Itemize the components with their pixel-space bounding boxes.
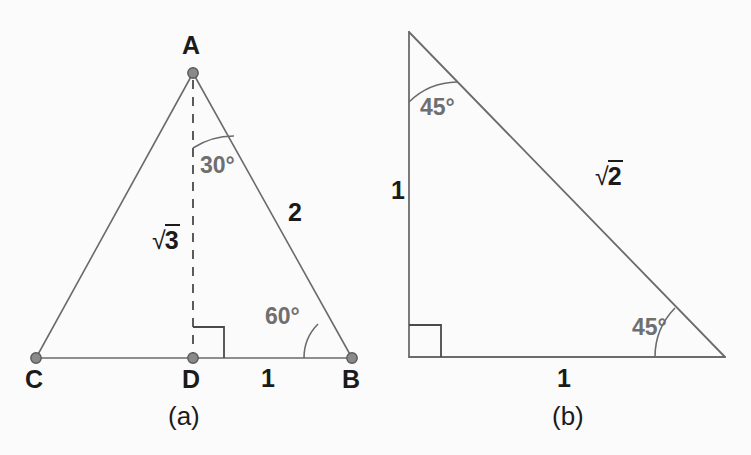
right-angle-marker-d xyxy=(193,327,224,358)
caption-panel-b: (b) xyxy=(552,403,584,429)
vertex-label-d: D xyxy=(182,367,200,392)
side-label-hypotenuse-2: 2 xyxy=(288,200,302,225)
side-label-altitude-sqrt3: √3 xyxy=(152,228,180,253)
caption-panel-a: (a) xyxy=(168,403,200,429)
vertex-dot-a xyxy=(188,68,198,78)
vertex-dot-d xyxy=(188,353,198,363)
segment-hypotenuse xyxy=(409,32,725,357)
panel-b-group xyxy=(409,32,725,357)
segment-ac xyxy=(36,73,193,358)
geometry-figure-canvas: A C D B 30° 60° √3 2 1 (a) 45° 45° 1 1 √… xyxy=(0,0,751,455)
angle-label-45-top: 45° xyxy=(420,96,455,119)
vertex-label-a: A xyxy=(182,33,200,58)
panel-a-group xyxy=(31,68,357,363)
vertex-label-c: C xyxy=(25,367,43,392)
angle-arc-60 xyxy=(304,324,318,358)
side-label-vertical-leg-1: 1 xyxy=(391,178,405,203)
radical-sign: √ xyxy=(595,162,609,190)
radical-sign: √ xyxy=(152,226,166,254)
side-label-hypotenuse-sqrt2: √2 xyxy=(595,164,623,189)
side-label-half-base-1: 1 xyxy=(261,366,275,391)
angle-arc-30 xyxy=(193,136,234,148)
angle-label-60: 60° xyxy=(265,305,300,328)
radical-body: 2 xyxy=(608,160,623,190)
side-label-horizontal-leg-1: 1 xyxy=(557,366,571,391)
radical-body: 3 xyxy=(165,224,180,254)
vertex-dot-c xyxy=(31,353,41,363)
angle-label-30: 30° xyxy=(200,154,235,177)
angle-label-45-bottom: 45° xyxy=(632,316,667,339)
vertex-dot-b xyxy=(347,353,357,363)
vertex-label-b: B xyxy=(342,367,360,392)
geometry-svg xyxy=(0,0,751,455)
right-angle-marker-b xyxy=(409,325,441,357)
